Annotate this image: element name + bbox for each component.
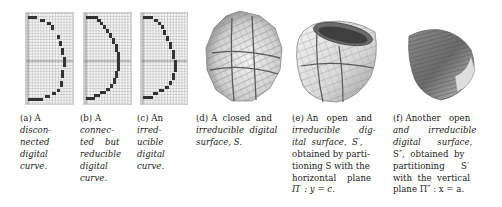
caption-line: tioning S with the [292,161,388,173]
caption-line: connec- [80,125,132,137]
caption-line: discon- [20,125,72,137]
caption-line: obtained by parti- [292,149,388,161]
caption-line: horizontal plane [292,173,388,185]
caption-line: ted but [80,137,132,149]
caption-line: ucible [137,137,187,149]
caption-line: with the vertical [393,173,489,185]
caption-line: plane Π″ : x = a. [393,184,489,196]
open-surface-vertical-cut-image [405,26,477,102]
digital-grid-a [25,12,74,105]
caption-e: (e) An open and irreducible dig- ital su… [292,113,388,196]
caption-line: curve. [20,161,72,173]
caption-line: curve. [80,173,132,185]
disconnected-curve-image [26,13,73,104]
caption-line: digital [137,149,187,161]
open-surface-horizontal-cut-image [293,16,381,104]
caption-line: curve. [137,161,187,173]
caption-line: S″, obtained by [393,149,489,161]
caption-c: (c) An irred- ucible digital curve. [137,113,187,173]
caption-line: (f) Another open [393,113,489,125]
caption-line: digital [80,161,132,173]
caption-line: (c) An [137,113,187,125]
caption-line: reducible [80,149,132,161]
reducible-curve-image [84,13,131,104]
caption-line: irreducible digital [196,125,284,137]
caption-line: partitioning S′ [393,161,489,173]
caption-line: irreducible dig- [292,125,388,137]
caption-line: digital [20,149,72,161]
caption-line: (d) A closed and [196,113,284,125]
caption-line: Π′ : y = c. [292,184,388,196]
caption-line: ital surface, S′, [292,137,388,149]
caption-a: (a) A discon- nected digital curve. [20,113,72,173]
caption-line: nected [20,137,72,149]
caption-line: (a) A [20,113,72,125]
caption-line: irred- [137,125,187,137]
caption-b: (b) A connec- ted but reducible digital … [80,113,132,184]
caption-f: (f) Another open and irreducible digital… [393,113,489,196]
irreducible-curve-image [141,13,187,104]
digital-grid-b [83,12,132,105]
caption-d: (d) A closed and irreducible digital sur… [196,113,284,149]
digital-grid-c [140,12,188,105]
caption-line: and irreducible [393,125,489,137]
caption-line: digital surface, [393,137,489,149]
caption-line: (b) A [80,113,132,125]
caption-line: surface, S. [196,137,284,149]
closed-surface-image [202,8,284,106]
caption-line: (e) An open and [292,113,388,125]
